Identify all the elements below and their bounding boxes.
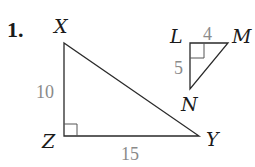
triangle-lmn: L M N 4 5	[169, 24, 252, 115]
triangle-xyz: X Z Y 10 15	[36, 15, 221, 164]
side-label-zy: 15	[121, 144, 139, 164]
triangle-xyz-shape	[64, 43, 199, 136]
side-label-ln: 5	[174, 58, 183, 78]
problem-number: 1.	[7, 17, 24, 42]
vertex-label-n: N	[180, 93, 199, 115]
vertex-label-m: M	[231, 25, 252, 47]
similar-triangles-diagram: 1. X Z Y 10 15 L M N 4 5	[0, 0, 255, 167]
vertex-label-l: L	[169, 25, 183, 47]
right-angle-marker-z	[64, 124, 77, 136]
triangle-lmn-shape	[190, 43, 228, 89]
vertex-label-y: Y	[206, 128, 221, 150]
side-label-xz: 10	[36, 82, 54, 102]
vertex-label-x: X	[52, 15, 69, 37]
vertex-label-z: Z	[41, 130, 56, 152]
side-label-lm: 4	[203, 24, 212, 44]
right-angle-marker-l	[190, 43, 204, 58]
